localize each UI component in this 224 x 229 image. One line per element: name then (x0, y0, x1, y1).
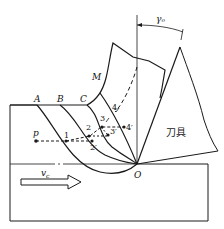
velocity-subscript: c (46, 172, 50, 179)
label-M: M (91, 72, 102, 82)
label-point-3: 3 (100, 114, 105, 123)
chip-formation-diagram: A B C M O p γₒ 刀具 vc 1 2 2′ 3 3′ 4 4′ (0, 0, 224, 229)
shear-line-B (60, 105, 137, 164)
label-point-3p: 3′ (110, 127, 117, 136)
label-point-2p: 2′ (90, 143, 97, 152)
label-O: O (134, 170, 142, 180)
tool-body (137, 47, 218, 164)
velocity-arrow (21, 175, 81, 189)
tool-rake-face (137, 47, 180, 164)
label-point-4p: 4′ (126, 123, 133, 132)
point-2 (87, 134, 90, 137)
label-point-4: 4 (112, 103, 117, 112)
point-3 (100, 125, 103, 128)
label-tool: 刀具 (166, 127, 186, 138)
label-point-1: 1 (64, 131, 69, 140)
rake-angle-arc (137, 25, 183, 32)
tick-3 (106, 118, 109, 122)
workpiece-outline (10, 105, 208, 221)
chip-dashed-line (115, 67, 137, 112)
label-p: p (33, 128, 39, 138)
label-point-2: 2 (86, 123, 91, 132)
label-A: A (33, 94, 41, 104)
rake-angle-arrow (137, 23, 142, 27)
label-B: B (56, 94, 64, 104)
label-velocity: vc (41, 168, 50, 179)
point-p (34, 139, 38, 143)
label-C: C (80, 94, 87, 104)
rake-angle-tick (181, 29, 183, 40)
label-rake-angle: γₒ (156, 14, 165, 24)
